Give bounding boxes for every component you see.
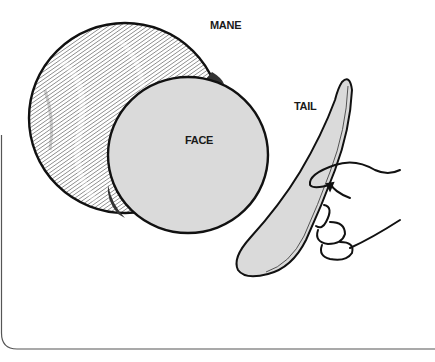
tail-label: TAIL [294,100,316,112]
face-shape [108,77,268,233]
mane-label: MANE [210,19,241,31]
face-label: FACE [185,134,213,146]
lion-parts-diagram [0,0,435,362]
